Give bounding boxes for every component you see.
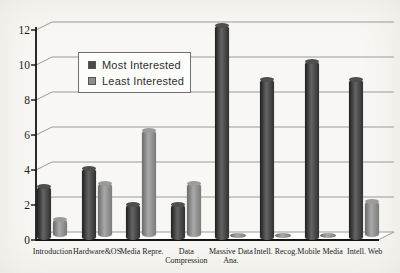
bar-most-interested-intell-recog- <box>260 79 274 240</box>
bar-most-interested-introduction <box>37 186 51 240</box>
bar-most-interested-data-compression <box>171 204 185 240</box>
bar-cap-most-interested-mobile-media <box>305 59 319 64</box>
y-tick-label-0: 0 <box>4 233 30 247</box>
bar-least-interested-intell-recog--zero <box>275 233 291 238</box>
bar-cap-most-interested-intell-recog- <box>260 77 274 82</box>
gridline-diagonal-y12 <box>36 22 52 30</box>
x-axis-label-intell-web: Intell. Web <box>338 247 392 256</box>
y-tick-label-2: 2 <box>4 198 30 212</box>
bar-cap-most-interested-intell-web <box>349 77 363 82</box>
bar-least-interested-hardware&os <box>98 183 112 237</box>
bar-least-interested-intell-web <box>365 201 379 237</box>
x-axis-label-line: Intell. Web <box>338 247 392 256</box>
legend-swatch-most-interested <box>88 61 96 69</box>
gridline-diagonal-y4 <box>36 162 52 170</box>
legend-label-most-interested: Most Interested <box>102 59 181 71</box>
y-tick-label-12: 12 <box>4 23 30 37</box>
y-tick-label-8: 8 <box>4 93 30 107</box>
bar-least-interested-media-repre- <box>142 130 156 237</box>
bar-least-interested-mobile-media-zero <box>320 233 336 238</box>
legend-item-most-interested: Most Interested <box>88 59 190 71</box>
y-tick-label-6: 6 <box>4 128 30 142</box>
bar-chart: Most Interested Least Interested 0246810… <box>0 0 400 273</box>
bar-least-interested-data-compression <box>187 183 201 237</box>
legend-swatch-least-interested <box>88 77 96 85</box>
bar-cap-least-interested-media-repre- <box>142 128 156 133</box>
bar-most-interested-mobile-media <box>305 61 319 240</box>
bar-most-interested-intell-web <box>349 79 363 240</box>
chart-legend: Most Interested Least Interested <box>78 52 191 93</box>
bar-most-interested-hardware&os <box>82 168 96 240</box>
gridline-diagonal-y6 <box>36 127 52 135</box>
gridline-diagonal-y8 <box>36 92 52 100</box>
bar-most-interested-media-repre- <box>126 204 140 240</box>
y-tick-label-10: 10 <box>4 58 30 72</box>
bar-most-interested-massive-data-ana- <box>215 25 229 240</box>
legend-item-least-interested: Least Interested <box>88 75 190 87</box>
legend-label-least-interested: Least Interested <box>102 75 184 87</box>
x-axis-label-line: Ana. <box>204 256 258 265</box>
y-tick-label-4: 4 <box>4 163 30 177</box>
gridline-diagonal-y10 <box>36 57 52 65</box>
